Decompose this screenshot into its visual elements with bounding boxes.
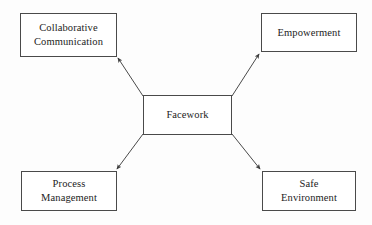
node-label-process-management: Process Management (38, 177, 100, 205)
diagram-canvas: Collaborative Communication Empowerment … (0, 0, 372, 225)
edge-facework-to-safe-environment (232, 134, 260, 169)
node-label-collaborative-communication: Collaborative Communication (31, 21, 106, 49)
node-label-empowerment: Empowerment (275, 26, 344, 40)
edge-facework-to-empowerment (232, 54, 259, 96)
node-collaborative-communication[interactable]: Collaborative Communication (20, 13, 117, 57)
node-label-facework: Facework (163, 108, 211, 122)
node-empowerment[interactable]: Empowerment (261, 13, 357, 52)
node-facework[interactable]: Facework (143, 95, 232, 135)
node-safe-environment[interactable]: Safe Environment (262, 171, 356, 211)
edge-facework-to-process-management (117, 134, 143, 169)
edge-facework-to-collaborative-communication (118, 58, 143, 96)
node-process-management[interactable]: Process Management (21, 171, 117, 211)
node-label-safe-environment: Safe Environment (278, 177, 340, 205)
